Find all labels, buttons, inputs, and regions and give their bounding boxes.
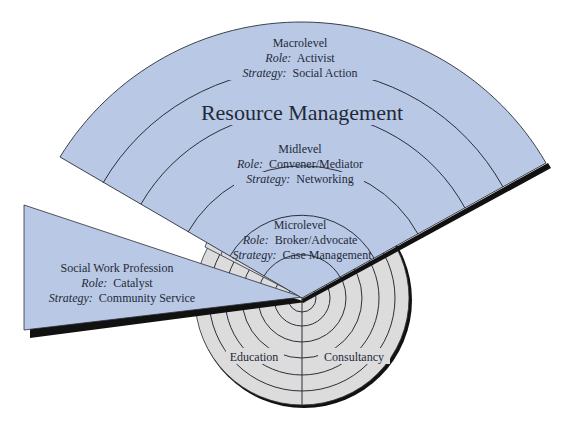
profession-strategy-line: Strategy: Community Service [49, 291, 195, 305]
profession-strategy-label: Strategy: [49, 291, 93, 305]
diagram-title: Resource Management [201, 100, 403, 125]
mid-role-line: Role: Convener/Mediator [236, 157, 363, 171]
micro-role: Broker/Advocate [275, 233, 358, 247]
mid-strategy: Networking [296, 172, 353, 186]
profession-role: Catalyst [113, 276, 153, 290]
micro-role-label: Role: [242, 233, 269, 247]
profession-role-line: Role: Catalyst [80, 276, 153, 290]
profession-text: Social Work Profession [61, 261, 174, 275]
profession-role-label: Role: [80, 276, 107, 290]
micro-strategy: Case Management [283, 248, 373, 262]
mid-level-name: Midlevel [278, 142, 322, 156]
micro-level-name: Microlevel [274, 218, 327, 232]
macro-role: Activist [297, 51, 336, 65]
macro-level-name: Macrolevel [273, 36, 328, 50]
micro-role-line: Role: Broker/Advocate [242, 233, 358, 247]
consultancy-label: Consultancy [324, 350, 384, 364]
mid-strategy-line: Strategy: Networking [246, 172, 353, 186]
macro-strategy-line: Strategy: Social Action [243, 66, 358, 80]
macro-role-label: Role: [264, 51, 291, 65]
macro-strategy-label: Strategy: [243, 66, 287, 80]
micro-strategy-line: Strategy: Case Management [233, 248, 373, 262]
micro-strategy-label: Strategy: [233, 248, 277, 262]
education-label: Education [230, 350, 279, 364]
profession-strategy: Community Service [99, 291, 195, 305]
macro-strategy: Social Action [293, 66, 358, 80]
mid-role: Convener/Mediator [269, 157, 363, 171]
profession-name: Social Work Profession [61, 261, 174, 275]
resource-management-diagram: Education Consultancy Social Work Profes… [0, 0, 569, 427]
macro-role-line: Role: Activist [264, 51, 335, 65]
mid-strategy-label: Strategy: [246, 172, 290, 186]
mid-role-label: Role: [236, 157, 263, 171]
